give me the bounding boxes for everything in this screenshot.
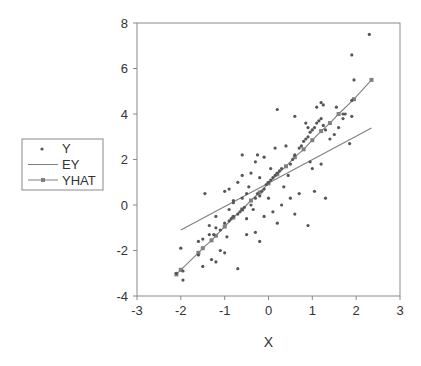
- y-data-point: [337, 126, 340, 129]
- y-data-point: [298, 192, 301, 195]
- y-data-point: [223, 190, 226, 193]
- y-data-point: [282, 185, 285, 188]
- y-tick-label: 4: [121, 107, 128, 122]
- yhat-marker: [337, 112, 341, 116]
- y-data-point: [269, 167, 272, 170]
- y-data-point: [245, 192, 248, 195]
- x-tick-label: -2: [175, 303, 187, 318]
- y-data-point: [228, 208, 231, 211]
- y-data-point: [276, 108, 279, 111]
- y-data-point: [214, 226, 217, 229]
- x-tick-label: -3: [131, 303, 143, 318]
- y-data-point: [214, 260, 217, 263]
- y-tick-label: -2: [116, 243, 128, 258]
- yhat-marker: [302, 147, 306, 151]
- y-data-point: [223, 251, 226, 254]
- y-data-point: [219, 228, 222, 231]
- legend-label-y: Y: [62, 141, 71, 156]
- plot-area: [137, 23, 400, 296]
- y-data-point: [350, 53, 353, 56]
- y-data-point: [249, 203, 252, 206]
- x-axis-title: X: [264, 334, 274, 350]
- x-tick-label: 1: [309, 303, 316, 318]
- y-data-point: [289, 197, 292, 200]
- y-data-point: [219, 249, 222, 252]
- x-tick-label: -1: [219, 303, 231, 318]
- y-data-point: [309, 160, 312, 163]
- y-data-point: [258, 240, 261, 243]
- y-data-point: [335, 106, 338, 109]
- y-data-point: [306, 126, 309, 129]
- y-data-point: [287, 174, 290, 177]
- x-tick-label: 3: [396, 303, 403, 318]
- y-data-point: [256, 153, 259, 156]
- x-tick-label: 0: [265, 303, 272, 318]
- y-data-point: [249, 172, 252, 175]
- y-data-point: [208, 224, 211, 227]
- y-data-point: [232, 215, 235, 218]
- y-data-point: [306, 135, 309, 138]
- legend-label-ey: EY: [62, 157, 80, 172]
- y-data-point: [267, 197, 270, 200]
- yhat-marker: [284, 164, 288, 168]
- y-data-point: [208, 233, 211, 236]
- y-data-point: [179, 247, 182, 250]
- y-data-point: [245, 217, 248, 220]
- y-data-point: [324, 197, 327, 200]
- legend-y-marker-icon: [40, 147, 43, 150]
- y-data-point: [348, 142, 351, 145]
- y-data-point: [350, 99, 353, 102]
- y-data-point: [197, 240, 200, 243]
- y-data-point: [313, 190, 316, 193]
- y-data-point: [236, 267, 239, 270]
- y-tick-label: -4: [116, 289, 128, 304]
- y-data-point: [333, 133, 336, 136]
- y-data-point: [320, 163, 323, 166]
- y-data-point: [241, 197, 244, 200]
- y-tick-label: 2: [121, 152, 128, 167]
- yhat-marker: [201, 246, 205, 250]
- y-data-point: [236, 181, 239, 184]
- y-data-point: [181, 279, 184, 282]
- y-data-point: [203, 192, 206, 195]
- y-data-point: [214, 215, 217, 218]
- y-data-point: [293, 115, 296, 118]
- y-data-point: [328, 137, 331, 140]
- y-data-point: [313, 126, 316, 129]
- yhat-marker: [249, 199, 253, 203]
- y-data-point: [341, 117, 344, 120]
- y-data-point: [352, 78, 355, 81]
- y-data-point: [228, 188, 231, 191]
- y-data-point: [306, 224, 309, 227]
- y-axis: 8 6 4 2 0 -2 -4: [116, 16, 137, 304]
- y-data-point: [324, 128, 327, 131]
- y-data-point: [254, 160, 257, 163]
- y-data-point: [258, 176, 261, 179]
- y-data-point: [210, 258, 213, 261]
- yhat-marker: [210, 238, 214, 242]
- y-data-point: [276, 222, 279, 225]
- y-tick-label: 8: [121, 16, 128, 31]
- y-data-point: [197, 253, 200, 256]
- y-tick-label: 0: [121, 198, 128, 213]
- legend-yhat-marker-icon: [41, 178, 45, 182]
- y-data-point: [274, 147, 277, 150]
- y-data-point: [263, 156, 266, 159]
- y-data-point: [258, 194, 261, 197]
- y-tick-label: 6: [121, 61, 128, 76]
- y-data-point: [225, 235, 228, 238]
- y-data-point: [254, 231, 257, 234]
- y-data-point: [293, 213, 296, 216]
- yhat-marker: [310, 138, 314, 142]
- y-data-point: [181, 269, 184, 272]
- y-data-point: [271, 210, 274, 213]
- y-data-point: [201, 265, 204, 268]
- y-data-point: [291, 158, 294, 161]
- y-data-point: [320, 117, 323, 120]
- yhat-marker: [328, 121, 332, 125]
- y-data-point: [322, 103, 325, 106]
- legend: Y EY YHAT: [22, 139, 103, 190]
- y-data-point: [304, 122, 307, 125]
- yhat-marker: [319, 129, 323, 133]
- y-data-point: [280, 167, 283, 170]
